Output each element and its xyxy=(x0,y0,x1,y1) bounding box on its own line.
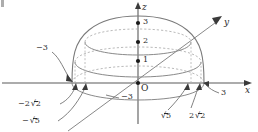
x-annotation-neg-root-five: −√5 xyxy=(22,117,40,125)
leader-root-five-arrowhead xyxy=(184,83,190,90)
sqrt-symbol: √2 xyxy=(194,112,205,120)
x-annotation-neg-two-root-two: −2√2 xyxy=(18,100,41,108)
leader-neg-root-five xyxy=(58,88,85,121)
radical-bar xyxy=(198,113,202,114)
radical-bar xyxy=(33,118,37,119)
point-z3 xyxy=(136,21,140,25)
dome-diagram xyxy=(0,0,258,132)
radical-bar xyxy=(34,101,38,102)
point-z2 xyxy=(136,40,140,44)
y-axis-label: y xyxy=(224,18,229,27)
leader-root-five xyxy=(168,88,186,110)
z-axis-arrowhead xyxy=(135,2,141,9)
sqrt-symbol: √5 xyxy=(29,117,40,125)
z-axis-label: z xyxy=(142,3,147,12)
z-tick-label-2: 2 xyxy=(143,37,148,45)
leader-two-root-two-arrowhead xyxy=(196,83,202,90)
sqrt-symbol: √2 xyxy=(30,100,41,108)
radical-bar xyxy=(164,113,168,114)
neg-root-five-sign: − xyxy=(22,116,29,125)
x-axis-label: x xyxy=(245,86,250,95)
x-annotation-neg-three-left: −3 xyxy=(36,44,48,52)
leader-two-root-two xyxy=(191,88,198,108)
sqrt-symbol: √5 xyxy=(160,112,171,120)
x-annotation-root-five: √5 xyxy=(160,112,171,120)
x-annotation-two-root-two: 2√2 xyxy=(189,112,205,120)
z-tick-label-1: 1 xyxy=(143,56,148,64)
leader-neg-root-five-arrowhead xyxy=(82,83,88,90)
origin-label: O xyxy=(141,84,148,93)
y-annotation-neg-three: −3 xyxy=(121,93,133,101)
point-z1 xyxy=(136,59,140,63)
x-annotation-three-right: 3 xyxy=(221,89,226,97)
z-tick-label-3: 3 xyxy=(143,18,148,26)
point-origin xyxy=(136,81,140,85)
neg-two-root-two-coefficient: −2 xyxy=(18,99,30,108)
leader-neg-two-root-two xyxy=(60,88,75,104)
